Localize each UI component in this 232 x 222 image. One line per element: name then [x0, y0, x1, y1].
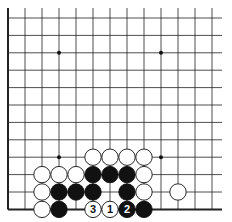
black-stone: 2: [119, 201, 135, 217]
white-stone: [136, 184, 152, 200]
white-stone: 3: [85, 201, 101, 217]
white-stone: [34, 201, 50, 217]
go-board-diagram: 312: [0, 0, 232, 222]
white-stone: [136, 166, 152, 182]
white-stone: [85, 149, 101, 165]
white-stone: [34, 166, 50, 182]
black-stone: [85, 166, 101, 182]
white-stone: [51, 166, 67, 182]
black-stone: [119, 184, 135, 200]
white-stone: 1: [102, 201, 118, 217]
black-stone: [51, 184, 67, 200]
white-stone: [136, 149, 152, 165]
white-stone: [119, 149, 135, 165]
black-stone: [136, 201, 152, 217]
black-stone: [68, 184, 84, 200]
star-point: [57, 51, 61, 55]
white-stone: [170, 184, 186, 200]
move-number-label: 2: [124, 203, 130, 215]
black-stone: [102, 166, 118, 182]
black-stone: [119, 166, 135, 182]
star-point: [57, 155, 61, 159]
white-stone: [68, 166, 84, 182]
white-stone: [102, 149, 118, 165]
black-stone: [51, 201, 67, 217]
move-number-label: 3: [90, 203, 96, 215]
black-stone: [85, 184, 101, 200]
white-stone: [34, 184, 50, 200]
star-point: [159, 155, 163, 159]
move-number-label: 1: [107, 203, 113, 215]
star-point: [159, 51, 163, 55]
